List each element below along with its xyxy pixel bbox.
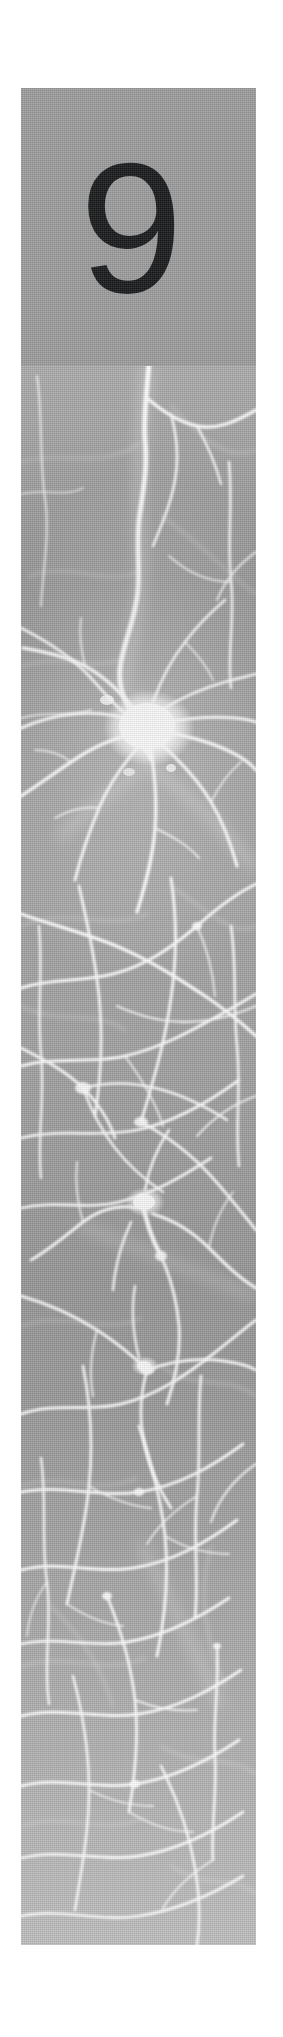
neuron-micrograph [21,366,256,1945]
chapter-number-block: 9 [21,88,256,366]
neuron-micrograph-artwork [21,366,256,1945]
chapter-opening-page: 9 [0,0,283,2037]
chapter-number: 9 [80,155,181,300]
